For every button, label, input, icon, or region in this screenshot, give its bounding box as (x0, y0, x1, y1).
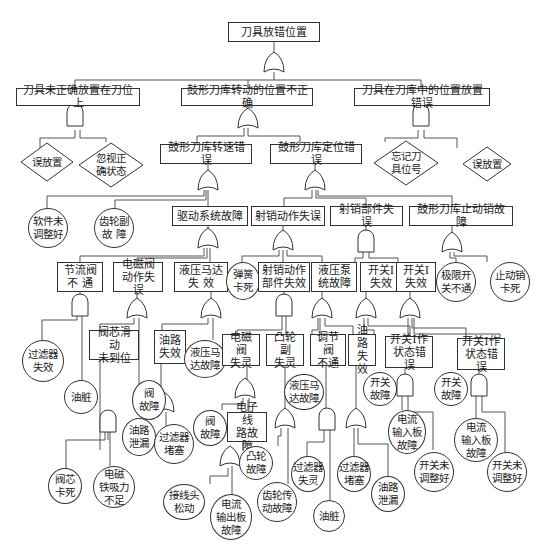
event-l5-2: 阀芯滑动 未到位 (89, 330, 139, 360)
basic-event-l6-13: 开关未 调整好 (414, 452, 454, 492)
event-l3-3: 射销动作失误 (251, 206, 325, 226)
event-l1-1: 鼓形刀库转动的位置不正确 (181, 88, 313, 106)
event-l2-1: 鼓形刀库定位错误 (270, 144, 362, 164)
basic-event-l6-2: 油路 泄漏 (122, 418, 156, 456)
basic-event-l4-9: 止动销 卡死 (490, 262, 530, 302)
event-l6-5: 电子线 路故障 (227, 412, 267, 442)
diamond-2: 忘记刀 具位号 (373, 140, 439, 186)
event-l3-4: 射销部件失误 (330, 206, 403, 226)
diamond-label: 忽视正 确状态 (96, 152, 126, 178)
event-l3-5: 鼓形刀库止动销故障 (409, 206, 513, 226)
basic-event-l6-8: 过滤器 失灵 (291, 456, 325, 492)
basic-event-l6-7: 齿轮传 动故障 (257, 482, 297, 522)
basic-event-l4-8: 极限开 关不通 (436, 262, 476, 302)
basic-event-l6-0: 阀芯 卡死 (48, 468, 82, 504)
diamond-label: 忘记刀 具位号 (391, 150, 421, 176)
basic-event-l6-9: 油脏 (313, 500, 345, 532)
basic-event-l6-1: 电磁 铁吸力 不足 (93, 466, 135, 508)
event-l4-7: 开关Ⅰ 失效 (396, 262, 436, 292)
event-l3-2: 驱动系统故障 (172, 206, 248, 226)
event-l2-0: 鼓形刀库转速错误 (160, 144, 252, 164)
basic-event-l3-1: 齿轮副 故 障 (94, 208, 134, 248)
event-l4-2: 液压马达 失 效 (174, 262, 228, 292)
basic-event-l6-3: 过滤器 堵塞 (154, 424, 194, 464)
event-l4-4: 射销动作 部件失效 (258, 262, 310, 292)
basic-event-l5-8: 液压马 达故障 (284, 374, 324, 410)
basic-event-l6-15: 开关未 调整好 (487, 452, 527, 492)
event-l5-14: 开关Ⅰ作 状态错误 (457, 338, 505, 370)
event-l4-5: 液压泵 统故障 (311, 262, 357, 292)
basic-event-l6-14: 电流 输入板 故障 (454, 418, 498, 462)
basic-event-l3-0: 软件未 调整好 (28, 208, 68, 248)
diamond-1: 忽视正 确状态 (78, 142, 144, 188)
top-event: 刀具放错位置 (228, 22, 320, 42)
event-l4-1: 电磁阀 动作失误 (113, 262, 163, 292)
basic-event-l6-10: 过滤器 堵塞 (337, 456, 371, 492)
event-l5-10: 油路 失效 (348, 334, 376, 366)
basic-event-l5-3: 阀 故障 (132, 380, 166, 420)
diamond-3: 误放置 (462, 146, 512, 182)
event-l1-0: 刀具未正确放置在刀位上 (16, 88, 140, 106)
basic-event-l6-4: 阀 故障 (193, 410, 227, 446)
basic-event-l7-1: 电流 输出板 故障 (210, 494, 252, 540)
diamond-0: 误放置 (20, 142, 74, 182)
event-l5-6: 电磁阀 失灵 (222, 334, 260, 366)
basic-event-l5-5: 液压马 达故障 (184, 340, 226, 378)
basic-event-l5-0: 过滤器 失效 (22, 340, 64, 382)
diamond-label: 误放置 (32, 156, 62, 169)
basic-event-l5-13: 开关 故障 (434, 372, 468, 406)
basic-event-l4-3: 弹簧 卡死 (226, 262, 260, 300)
basic-event-l7-0: 接线头 松动 (163, 484, 205, 520)
event-l5-7: 凸轮副 失灵 (266, 334, 304, 366)
basic-event-l5-1: 油脏 (64, 380, 98, 414)
event-l5-11: 开关Ⅰ作 状态错误 (385, 336, 433, 368)
basic-event-l6-11: 油路 泄漏 (371, 476, 405, 512)
event-l5-4: 油路 失效 (154, 330, 186, 364)
basic-event-l5-12: 开关 故障 (363, 372, 397, 406)
basic-event-l6-6: 凸轮 故障 (239, 446, 273, 480)
diamond-label: 误放置 (472, 158, 502, 171)
event-l5-9: 调节阀 不通 (310, 334, 346, 366)
event-l4-0: 节流阀 不 通 (57, 262, 103, 292)
basic-event-l6-12: 电流 输入板 故障 (388, 410, 426, 454)
event-l1-2: 刀具在刀库中的位置放置错误 (354, 88, 490, 106)
